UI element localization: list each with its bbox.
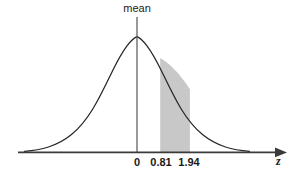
tick-label-194: 1.94 [175,157,203,168]
normal-distribution-figure: mean 0 0.81 1.94 z [0,0,300,181]
axis-label-z: z [276,155,281,167]
tick-label-081: 0.81 [147,157,175,168]
tick-label-0: 0 [125,157,149,168]
mean-label: mean [0,3,274,14]
distribution-plot [0,0,300,181]
shaded-area-region [160,58,190,152]
